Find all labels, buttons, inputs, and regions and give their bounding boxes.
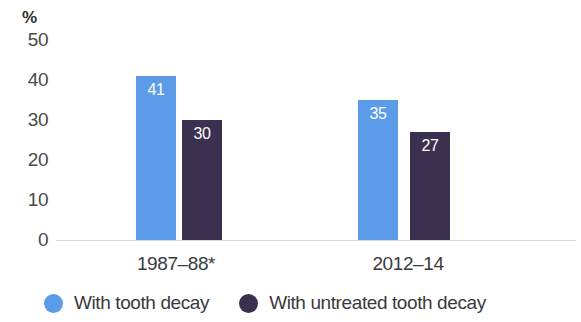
bar-chart: % 50 40 30 20 10 0 41 30 35 27 1987–88* …: [0, 0, 581, 322]
y-axis-tick: 10: [0, 189, 48, 211]
legend-label: With untreated tooth decay: [269, 292, 486, 314]
plot-area: 41 30 35 27: [56, 40, 576, 240]
y-axis-tick: 50: [0, 29, 48, 51]
chart-legend: With tooth decay With untreated tooth de…: [44, 292, 486, 314]
bar-value-label: 41: [136, 81, 176, 99]
y-axis-tick: 30: [0, 109, 48, 131]
bar-value-label: 35: [358, 105, 398, 123]
legend-swatch-icon: [239, 294, 258, 313]
bar-value-label: 30: [182, 125, 222, 143]
legend-item-with-tooth-decay: With tooth decay: [44, 292, 209, 314]
legend-label: With tooth decay: [74, 292, 209, 314]
bar-1987-with-tooth-decay: 41: [136, 76, 176, 240]
y-axis-tick: 40: [0, 69, 48, 91]
x-axis-category-label: 2012–14: [348, 253, 468, 275]
bar-2012-with-tooth-decay: 35: [358, 100, 398, 240]
bar-2012-with-untreated-tooth-decay: 27: [410, 132, 450, 240]
y-axis-title: %: [22, 8, 37, 28]
legend-item-with-untreated-tooth-decay: With untreated tooth decay: [239, 292, 486, 314]
x-axis-line: [56, 240, 576, 241]
y-axis-tick: 20: [0, 149, 48, 171]
bar-1987-with-untreated-tooth-decay: 30: [182, 120, 222, 240]
x-axis-category-label: 1987–88*: [116, 253, 236, 275]
y-axis-tick: 0: [0, 229, 48, 251]
bar-value-label: 27: [410, 137, 450, 155]
legend-swatch-icon: [44, 294, 63, 313]
